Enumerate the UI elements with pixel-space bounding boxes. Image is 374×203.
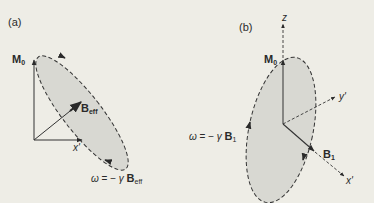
x-axis-label-a: x' [73, 143, 80, 153]
precession-ellipse-b [234, 51, 327, 203]
y-axis-label-b: y' [339, 92, 346, 102]
rotation-arrow-icon [303, 156, 304, 160]
m0-label-b: M0 [264, 54, 277, 66]
diagram-canvas [0, 0, 374, 203]
panel-b [234, 24, 344, 203]
equation-b: ω = − γ B1 [189, 131, 236, 143]
z-axis-label: z [282, 13, 287, 23]
m0-label-a: M0 [12, 54, 25, 66]
rotation-arrow-icon [105, 160, 108, 161]
panel-b-label: (b) [239, 22, 252, 33]
rotation-arrow-icon [249, 122, 250, 126]
beff-label: Beff [81, 103, 98, 115]
x-axis-label-b: x' [346, 176, 353, 186]
panel-a-label: (a) [8, 17, 21, 28]
b1-label: B1 [323, 149, 335, 161]
rotation-arrow-icon [61, 56, 65, 58]
equation-a: ω = − γ Beff [91, 173, 142, 185]
